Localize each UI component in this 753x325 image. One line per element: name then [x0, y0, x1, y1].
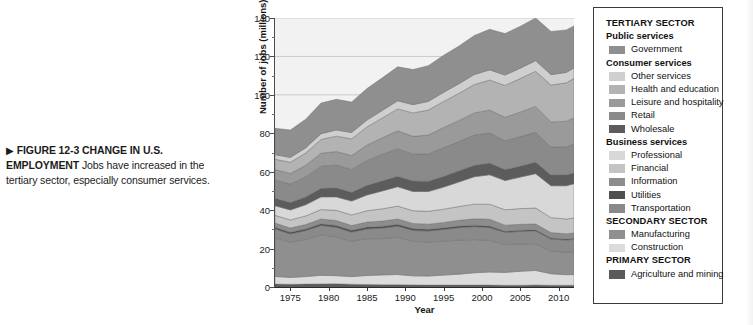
legend-swatch: [609, 204, 625, 213]
legend-sector-heading: TERTIARY SECTOR: [606, 17, 722, 30]
chart-legend: TERTIARY SECTORPublic servicesGovernment…: [593, 7, 723, 304]
legend-item[interactable]: Financial: [606, 162, 722, 175]
y-axis-minor-tick: [272, 76, 275, 77]
y-axis-minor-tick: [272, 229, 275, 230]
legend-item-label: Information: [631, 175, 678, 188]
x-axis-tick-label: 2005: [510, 292, 531, 303]
legend-swatch: [609, 151, 625, 160]
x-axis-tick: [290, 287, 291, 291]
legend-swatch: [609, 99, 625, 108]
chart-area-layers: [275, 18, 574, 287]
legend-item[interactable]: Professional: [606, 149, 722, 162]
y-axis-tick: [270, 210, 275, 211]
x-axis-tick: [367, 287, 368, 291]
legend-item[interactable]: Agriculture and mining: [606, 268, 722, 281]
x-axis-tick: [329, 287, 330, 291]
legend-sector-heading: PRIMARY SECTOR: [606, 254, 722, 267]
legend-item[interactable]: Transportation: [606, 202, 722, 215]
legend-swatch: [609, 191, 625, 200]
x-axis-tick-label: 1980: [318, 292, 339, 303]
legend-group-heading: Consumer services: [606, 57, 722, 70]
legend-item-label: Leisure and hospitality: [631, 96, 724, 109]
x-axis-tick-label: 2010: [548, 292, 569, 303]
y-axis-minor-tick: [272, 37, 275, 38]
legend-swatch: [609, 46, 625, 55]
legend-item-label: Agriculture and mining: [631, 268, 724, 281]
legend-item[interactable]: Health and education: [606, 83, 722, 96]
y-axis-tick: [270, 249, 275, 250]
chart-plot-area: Number of jobs (millions) Year 020406080…: [274, 18, 574, 288]
figure-container: ▶ FIGURE 12-3 CHANGE IN U.S. EMPLOYMENT …: [0, 0, 753, 325]
legend-item[interactable]: Utilities: [606, 189, 722, 202]
x-axis-tick: [444, 287, 445, 291]
legend-item-label: Health and education: [631, 83, 719, 96]
scan-edge-shadow: [745, 0, 753, 325]
y-axis-tick-label: 80: [259, 128, 270, 139]
x-axis-tick: [482, 287, 483, 291]
y-axis-tick: [270, 287, 275, 288]
legend-item-label: Government: [631, 43, 682, 56]
y-axis-tick-label: 120: [254, 51, 270, 62]
x-axis-tick: [559, 287, 560, 291]
y-axis-tick-label: 40: [259, 205, 270, 216]
legend-group-heading: Business services: [606, 136, 722, 149]
legend-item-label: Financial: [631, 162, 668, 175]
y-axis-tick-label: 140: [254, 13, 270, 24]
legend-swatch: [609, 244, 625, 253]
legend-item-label: Wholesale: [631, 123, 674, 136]
legend-group-heading: Public services: [606, 30, 722, 43]
x-axis-tick-label: 1990: [395, 292, 416, 303]
y-axis-tick: [270, 56, 275, 57]
legend-item[interactable]: Information: [606, 175, 722, 188]
x-axis-tick: [520, 287, 521, 291]
legend-swatch: [609, 178, 625, 187]
legend-swatch: [609, 230, 625, 239]
legend-item-label: Transportation: [631, 202, 691, 215]
y-axis-tick-label: 20: [259, 243, 270, 254]
legend-swatch: [609, 164, 625, 173]
legend-item-label: Manufacturing: [631, 228, 690, 241]
y-axis-minor-tick: [272, 268, 275, 269]
x-axis-tick-label: 2000: [471, 292, 492, 303]
y-axis-minor-tick: [272, 191, 275, 192]
legend-item[interactable]: Other services: [606, 70, 722, 83]
y-axis-minor-tick: [272, 153, 275, 154]
caption-arrow-icon: ▶: [6, 145, 14, 156]
x-axis-tick-label: 1985: [356, 292, 377, 303]
legend-item[interactable]: Wholesale: [606, 123, 722, 136]
legend-swatch: [609, 125, 625, 134]
legend-swatch: [609, 270, 625, 279]
legend-swatch: [609, 72, 625, 81]
legend-item[interactable]: Manufacturing: [606, 228, 722, 241]
y-axis-tick: [270, 95, 275, 96]
legend-swatch: [609, 85, 625, 94]
legend-item[interactable]: Leisure and hospitality: [606, 96, 722, 109]
y-axis-tick-label: 0: [265, 282, 270, 293]
x-axis-tick: [405, 287, 406, 291]
legend-item[interactable]: Retail: [606, 109, 722, 122]
legend-item-label: Retail: [631, 109, 655, 122]
y-axis-minor-tick: [272, 114, 275, 115]
legend-item[interactable]: Government: [606, 43, 722, 56]
stacked-area-svg: [275, 18, 574, 287]
y-axis-tick-label: 100: [254, 89, 270, 100]
legend-item-label: Utilities: [631, 189, 661, 202]
legend-item-label: Professional: [631, 149, 682, 162]
x-axis-tick-label: 1975: [280, 292, 301, 303]
x-axis-title: Year: [414, 304, 434, 315]
legend-sector-heading: SECONDARY SECTOR: [606, 215, 722, 228]
figure-caption: ▶ FIGURE 12-3 CHANGE IN U.S. EMPLOYMENT …: [6, 143, 228, 188]
x-axis-tick-label: 1995: [433, 292, 454, 303]
y-axis-tick-label: 60: [259, 166, 270, 177]
legend-item[interactable]: Construction: [606, 241, 722, 254]
legend-item-label: Other services: [631, 70, 691, 83]
y-axis-tick: [270, 133, 275, 134]
y-axis-tick: [270, 172, 275, 173]
legend-item-label: Construction: [631, 241, 683, 254]
y-axis-tick: [270, 18, 275, 19]
legend-swatch: [609, 112, 625, 121]
